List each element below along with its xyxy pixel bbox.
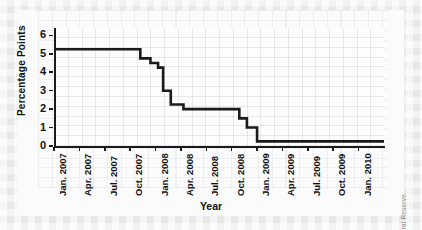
y-tick xyxy=(49,108,53,110)
series-federal-funds-rate xyxy=(54,28,384,146)
x-tick xyxy=(282,147,284,151)
x-tick xyxy=(155,147,157,151)
x-tick-label: Oct. 2008 xyxy=(236,154,246,196)
x-tick-label: Apr. 2008 xyxy=(185,154,195,196)
x-axis-title: Year xyxy=(18,200,404,212)
x-tick-label: Oct. 2009 xyxy=(337,154,347,196)
x-tick-label: Apr. 2007 xyxy=(83,154,93,196)
x-tick-label: Jan. 2007 xyxy=(58,153,68,196)
y-tick xyxy=(49,53,53,55)
y-tick-label: 0 xyxy=(22,140,46,151)
x-tick-label: Oct. 2007 xyxy=(134,154,144,196)
x-tick xyxy=(206,147,208,151)
x-tick xyxy=(53,147,55,151)
y-axis-line xyxy=(54,28,56,147)
x-tick xyxy=(79,147,81,151)
x-tick-label: Jan. 2010 xyxy=(363,153,373,196)
chart-figure: 0123456 Jan. 2007Apr. 2007Jul. 2007Oct. … xyxy=(18,10,404,216)
x-tick-label: Apr. 2009 xyxy=(286,154,296,196)
x-tick xyxy=(332,147,334,151)
x-tick xyxy=(180,147,182,151)
y-tick xyxy=(49,127,53,129)
y-tick-label: 1 xyxy=(22,122,46,133)
x-tick xyxy=(307,147,309,151)
x-tick xyxy=(358,147,360,151)
y-tick xyxy=(49,90,53,92)
x-tick-label: Jul. 2009 xyxy=(312,156,322,196)
x-tick xyxy=(231,147,233,151)
y-axis-title: Percentage Points xyxy=(16,25,27,116)
x-tick-label: Jan. 2009 xyxy=(261,153,271,196)
x-tick xyxy=(104,147,106,151)
x-tick xyxy=(129,147,131,151)
x-tick-label: Jul. 2008 xyxy=(210,156,220,196)
x-tick-label: Jul. 2007 xyxy=(109,156,119,196)
plot-area xyxy=(54,28,384,146)
y-tick xyxy=(49,35,53,37)
x-tick-label: Jan. 2008 xyxy=(160,153,170,196)
y-tick xyxy=(49,71,53,73)
x-tick xyxy=(256,147,258,151)
source-note: SOURCE: Federal Reserve xyxy=(400,194,407,230)
